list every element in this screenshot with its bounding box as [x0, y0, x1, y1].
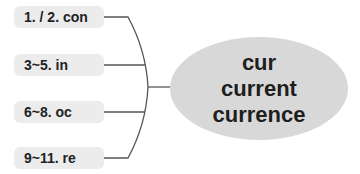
center-line-noun: currence [213, 102, 306, 128]
branch-node-oc: 6~8. oc [14, 101, 104, 123]
branch-label: 6~8. oc [24, 104, 72, 120]
branch-node-re: 9~11. re [14, 147, 104, 169]
center-line-word: current [221, 76, 297, 102]
branch-label: 9~11. re [24, 150, 76, 166]
center-node: cur current currence [170, 37, 348, 140]
branch-node-in: 3~5. in [14, 54, 104, 76]
branch-label: 3~5. in [24, 57, 68, 73]
branch-node-con: 1. / 2. con [14, 6, 104, 28]
center-line-root: cur [242, 50, 276, 76]
branch-label: 1. / 2. con [24, 9, 88, 25]
